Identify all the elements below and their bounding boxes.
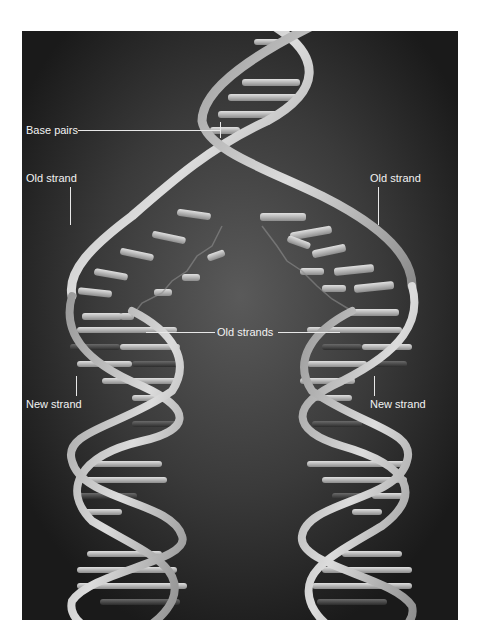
leader-old-strand-right <box>378 187 379 225</box>
diagram-panel: Base pairs Old strand Old strand Old str… <box>22 31 458 620</box>
label-new-strand-left: New strand <box>26 398 82 410</box>
leader-new-strand-left <box>76 376 77 396</box>
label-old-strands: Old strands <box>217 326 273 338</box>
leader-new-strand-right <box>374 376 375 396</box>
leader-old-strands-left <box>146 332 215 333</box>
label-old-strand-right: Old strand <box>370 172 421 184</box>
label-old-strand-left: Old strand <box>26 172 77 184</box>
leader-base-pairs <box>78 130 220 131</box>
leader-base-pairs-tick <box>220 122 221 138</box>
label-new-strand-right: New strand <box>370 398 426 410</box>
label-base-pairs: Base pairs <box>26 124 78 136</box>
leader-old-strands-right <box>278 332 340 333</box>
leader-old-strand-left <box>70 187 71 225</box>
